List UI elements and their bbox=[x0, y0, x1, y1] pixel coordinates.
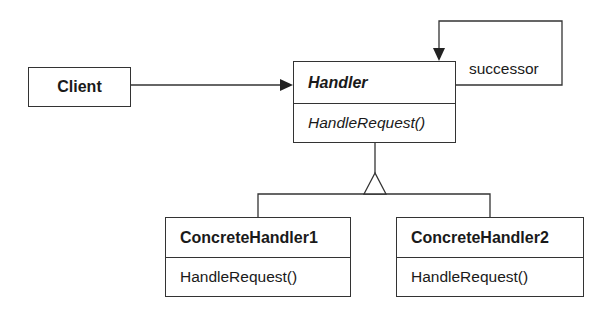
successor-label: successor bbox=[469, 60, 539, 78]
class-operation: HandleRequest() bbox=[397, 257, 583, 296]
class-concrete-handler-1: ConcreteHandler1 HandleRequest() bbox=[165, 217, 351, 297]
class-name: ConcreteHandler1 bbox=[166, 218, 350, 257]
successor-arrowhead-icon bbox=[433, 48, 445, 61]
class-handler: Handler HandleRequest() bbox=[293, 61, 456, 143]
class-operation: HandleRequest() bbox=[166, 257, 350, 296]
inheritance-triangle-icon bbox=[364, 173, 386, 194]
class-concrete-handler-2: ConcreteHandler2 HandleRequest() bbox=[396, 217, 584, 297]
class-name: Client bbox=[29, 68, 130, 106]
class-operation: HandleRequest() bbox=[294, 103, 455, 142]
class-name: ConcreteHandler2 bbox=[397, 218, 583, 257]
client-arrowhead-icon bbox=[280, 79, 293, 91]
class-client: Client bbox=[28, 67, 131, 107]
class-name: Handler bbox=[294, 62, 455, 103]
inheritance-branch bbox=[258, 194, 490, 217]
